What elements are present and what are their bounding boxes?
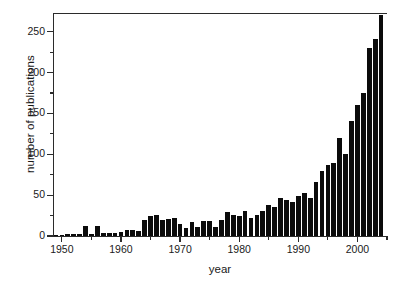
bar xyxy=(130,230,135,236)
bar xyxy=(113,233,118,236)
x-tick-label: 1980 xyxy=(216,243,262,255)
bar xyxy=(154,215,159,236)
bar xyxy=(136,231,141,236)
x-tick-minor xyxy=(386,236,387,240)
y-tick-label: 150 xyxy=(5,106,45,118)
x-tick-minor xyxy=(268,236,269,240)
y-tick-label: 100 xyxy=(5,147,45,159)
bar xyxy=(361,93,366,236)
bar xyxy=(148,216,153,236)
bar xyxy=(142,220,147,236)
bar xyxy=(225,212,230,237)
x-tick-major xyxy=(357,236,358,242)
bar xyxy=(255,215,260,236)
bar xyxy=(379,15,384,236)
bar xyxy=(349,121,354,236)
bar xyxy=(278,198,283,236)
x-tick-major xyxy=(239,236,240,242)
bar xyxy=(178,224,183,236)
bar xyxy=(331,163,336,236)
bar xyxy=(65,234,70,236)
publications-per-year-bar-chart: number of publications 050100150200250 1… xyxy=(0,0,395,287)
x-axis-line xyxy=(53,236,387,237)
bar xyxy=(231,215,236,236)
x-tick-label: 2000 xyxy=(334,243,380,255)
x-tick-major xyxy=(120,236,121,242)
bar xyxy=(207,221,212,236)
bar xyxy=(160,220,165,236)
bar xyxy=(125,230,130,236)
y-tick-label: 250 xyxy=(5,25,45,37)
x-tick-minor xyxy=(209,236,210,240)
y-tick-label: 0 xyxy=(5,229,45,241)
bar xyxy=(172,218,177,236)
x-tick-minor xyxy=(327,236,328,240)
bar xyxy=(71,234,76,236)
bar xyxy=(195,227,200,236)
bar xyxy=(54,235,59,236)
x-tick-label: 1960 xyxy=(98,243,144,255)
bar xyxy=(290,202,295,236)
bar xyxy=(119,232,124,236)
bar xyxy=(60,235,65,236)
bar xyxy=(213,227,218,236)
bar xyxy=(89,234,94,236)
bar xyxy=(272,207,277,236)
bar xyxy=(184,228,189,236)
bar xyxy=(249,218,254,236)
bar xyxy=(343,154,348,236)
x-tick-major xyxy=(298,236,299,242)
bar xyxy=(237,216,242,236)
bar xyxy=(107,233,112,236)
y-tick-label: 50 xyxy=(5,188,45,200)
bar xyxy=(367,48,372,236)
y-tick-label: 200 xyxy=(5,66,45,78)
bar xyxy=(101,233,106,236)
bar xyxy=(201,221,206,236)
bar xyxy=(95,226,100,236)
bar xyxy=(166,219,171,236)
bar xyxy=(320,171,325,236)
bar xyxy=(243,211,248,236)
bar xyxy=(284,200,289,236)
bar xyxy=(302,193,307,236)
x-tick-minor xyxy=(150,236,151,240)
x-tick-major xyxy=(179,236,180,242)
bar-series xyxy=(53,13,387,236)
bar xyxy=(266,205,271,236)
bar xyxy=(219,220,224,236)
x-tick-major xyxy=(61,236,62,242)
bar xyxy=(83,226,88,236)
bar xyxy=(373,39,378,236)
bar xyxy=(308,198,313,236)
bar xyxy=(355,105,360,236)
bar xyxy=(190,222,195,236)
x-tick-label: 1950 xyxy=(39,243,85,255)
x-tick-minor xyxy=(91,236,92,240)
bar xyxy=(314,182,319,236)
bar xyxy=(260,211,265,236)
x-axis-title: year xyxy=(53,263,387,275)
x-tick-label: 1970 xyxy=(157,243,203,255)
x-tick-label: 1990 xyxy=(275,243,321,255)
bar xyxy=(326,165,331,236)
bar xyxy=(296,196,301,236)
bar xyxy=(337,138,342,236)
bar xyxy=(77,234,82,236)
